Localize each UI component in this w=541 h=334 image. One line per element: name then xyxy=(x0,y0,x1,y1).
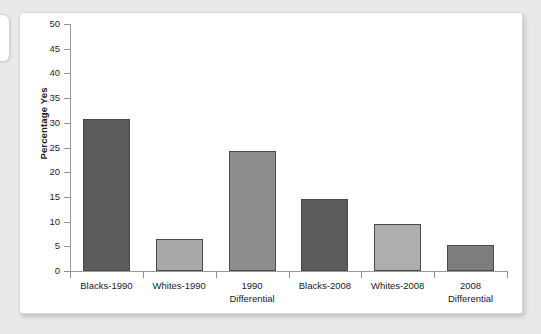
bar xyxy=(156,239,203,271)
y-tick xyxy=(64,172,71,173)
x-category-label-line2: Differential xyxy=(210,293,295,306)
y-tick xyxy=(64,222,71,223)
x-tick xyxy=(361,271,362,278)
bar xyxy=(447,245,494,271)
x-category-label-line1: Blacks-2008 xyxy=(299,280,351,291)
x-tick xyxy=(143,271,144,278)
y-tick-label: 20 xyxy=(26,167,60,177)
bar xyxy=(301,199,348,271)
x-category-label-line1: Whites-2008 xyxy=(371,280,424,291)
y-tick xyxy=(64,49,71,50)
y-tick xyxy=(64,24,71,25)
x-category-label-line1: Whites-1990 xyxy=(153,280,206,291)
y-tick-label: 40 xyxy=(26,68,60,78)
y-tick xyxy=(64,98,71,99)
y-tick xyxy=(64,197,71,198)
y-tick xyxy=(64,246,71,247)
x-tick xyxy=(434,271,435,278)
y-tick-label: 25 xyxy=(26,143,60,153)
figure-card: Percentage Yes 05101520253035404550 Blac… xyxy=(19,12,523,314)
bar xyxy=(374,224,421,271)
bar-chart: Percentage Yes 05101520253035404550 Blac… xyxy=(20,13,522,313)
y-tick-label: 5 xyxy=(26,241,60,251)
bar xyxy=(229,151,276,271)
y-tick-label: 0 xyxy=(26,266,60,276)
x-category-label-line1: Blacks-1990 xyxy=(80,280,132,291)
page-edge-sliver xyxy=(0,14,10,62)
bar xyxy=(83,119,130,271)
x-category-label-line2: Differential xyxy=(428,293,513,306)
x-tick xyxy=(507,271,508,278)
x-tick xyxy=(70,271,71,278)
x-tick xyxy=(289,271,290,278)
y-tick-label: 10 xyxy=(26,217,60,227)
y-tick xyxy=(64,148,71,149)
y-tick xyxy=(64,73,71,74)
x-category-label-line1: 1990 xyxy=(242,280,263,291)
x-category-label: 2008Differential xyxy=(428,280,513,305)
y-tick-label: 50 xyxy=(26,19,60,29)
y-tick-label: 30 xyxy=(26,118,60,128)
y-tick-label: 15 xyxy=(26,192,60,202)
y-tick-label: 35 xyxy=(26,93,60,103)
x-category-label-line1: 2008 xyxy=(460,280,481,291)
y-tick xyxy=(64,123,71,124)
x-tick xyxy=(216,271,217,278)
y-tick-label: 45 xyxy=(26,44,60,54)
